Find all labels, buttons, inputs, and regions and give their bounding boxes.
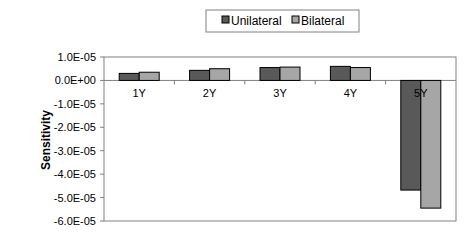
bar-unilateral-4Y [330,66,350,80]
legend-label-unilateral: Unilateral [231,14,282,28]
x-category-label: 4Y [344,87,358,99]
bar-bilateral-2Y [210,69,230,81]
legend-label-bilateral: Bilateral [301,14,344,28]
y-tick-label: -4.0E-05 [54,168,96,180]
x-category-label: 3Y [273,87,287,99]
bar-unilateral-1Y [119,73,139,80]
legend-swatch-unilateral [222,16,229,23]
x-category-label: 2Y [203,87,217,99]
bar-unilateral-2Y [190,70,210,80]
y-tick-label: -3.0E-05 [54,145,96,157]
y-tick-label: -6.0E-05 [54,215,96,227]
bar-bilateral-5Y [421,80,441,208]
x-category-label: 5Y [414,87,428,99]
legend-swatch-bilateral [292,16,299,23]
bar-unilateral-3Y [260,68,280,81]
y-axis-label: Sensitivity [39,110,53,170]
y-axis: 1.0E-050.0E+00-1.0E-05-2.0E-05-3.0E-05-4… [54,51,104,227]
x-category-label: 1Y [132,87,146,99]
y-tick-label: 1.0E-05 [57,51,96,63]
bar-bilateral-3Y [280,67,300,80]
y-tick-label: 0.0E+00 [55,74,96,86]
bar-bilateral-4Y [350,68,370,81]
y-tick-label: -1.0E-05 [54,98,96,110]
y-tick-label: -5.0E-05 [54,192,96,204]
chart: UnilateralBilateral Sensitivity 1.0E-050… [0,0,470,237]
y-tick-label: -2.0E-05 [54,121,96,133]
bar-bilateral-1Y [139,72,159,80]
legend: UnilateralBilateral [206,10,359,32]
plot-area: 1Y2Y3Y4Y5Y [104,57,456,221]
